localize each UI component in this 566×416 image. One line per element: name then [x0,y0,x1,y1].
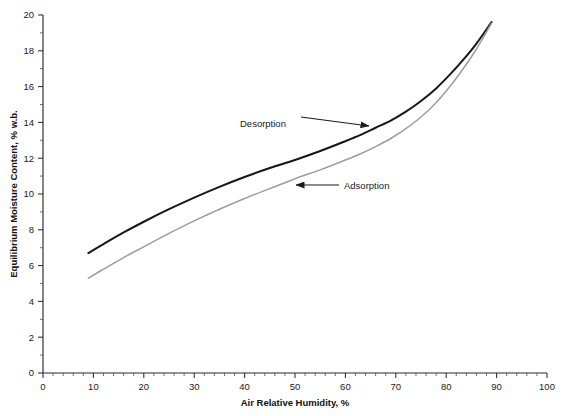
x-axis-tick-label: 30 [189,381,200,392]
x-axis-tick-label: 70 [391,381,402,392]
y-axis-tick-label: 14 [23,117,34,128]
x-axis-title: Air Relative Humidity, % [241,397,350,408]
y-axis: 02468101214161820 [23,9,43,378]
x-axis-tick-label: 90 [491,381,502,392]
y-axis-tick-label: 10 [23,188,34,199]
x-axis: 0102030405060708090100 [40,373,555,392]
y-axis-tick-label: 0 [29,367,34,378]
x-axis-tick-label: 40 [239,381,250,392]
y-axis-tick-label: 2 [29,332,34,343]
plot-area-background [43,14,547,373]
y-axis-title: Equilibrium Moisture Content, % w.b. [8,110,19,277]
y-axis-tick-label: 6 [29,260,34,271]
x-axis-tick-label: 50 [290,381,301,392]
y-axis-tick-label: 20 [23,9,34,20]
annotation-label-desorption: Desorption [240,118,286,129]
x-axis-tick-label: 60 [340,381,351,392]
chart-canvas: 02468101214161820 0102030405060708090100… [0,0,566,416]
chart-container: 02468101214161820 0102030405060708090100… [0,0,566,416]
x-axis-tick-label: 100 [539,381,555,392]
y-axis-tick-label: 16 [23,81,34,92]
y-axis-tick-label: 18 [23,45,34,56]
x-axis-tick-label: 80 [441,381,452,392]
x-axis-tick-label: 0 [40,381,45,392]
y-axis-tick-label: 4 [29,296,34,307]
x-axis-tick-label: 10 [88,381,99,392]
y-axis-tick-label: 8 [29,224,34,235]
y-axis-tick-label: 12 [23,153,34,164]
x-axis-tick-label: 20 [139,381,150,392]
annotation-label-adsorption: Adsorption [344,180,389,191]
